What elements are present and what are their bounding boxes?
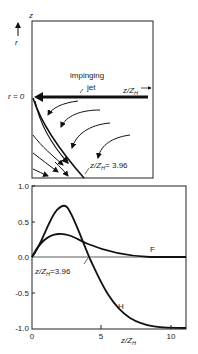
- jet-label-line2: jet: [86, 83, 96, 92]
- figure: z r r = 0 impinging jet z/ZH z/ZH= 3.96: [0, 0, 198, 354]
- flow-frame: [32, 21, 153, 178]
- x-axis: 0 5 10 z/ZH: [30, 325, 176, 346]
- streamline-3: [72, 123, 110, 148]
- axis-z-label: z: [28, 11, 33, 20]
- streamline-5: [33, 135, 63, 165]
- flow-diagram-panel: z r r = 0 impinging jet z/ZH z/ZH= 3.96: [8, 11, 153, 178]
- boundary-label: z/ZH= 3.96: [89, 161, 128, 171]
- streamline-7: [33, 169, 48, 176]
- jet-label-line1: impinging: [70, 71, 104, 80]
- streamline-6: [33, 153, 58, 172]
- streamline-4: [98, 135, 130, 158]
- x-tick-10: 10: [167, 332, 176, 341]
- r-zero-label: r = 0: [8, 92, 25, 101]
- y-tick-1: 1.0: [18, 182, 30, 191]
- profile-chart: 1.0 0.5 0.0 -0.5 -1.0 0 5 10 z/ZH F H z/…: [15, 182, 186, 346]
- axis-r-label: r: [15, 38, 18, 47]
- jet-axis-label: z/ZH: [122, 86, 138, 96]
- y-tick-0.5: 0.5: [18, 218, 30, 227]
- series-H-label: H: [118, 302, 124, 311]
- y-tick-neg0.5: -0.5: [15, 289, 29, 298]
- x-tick-0: 0: [30, 332, 35, 341]
- y-tick-neg1: -1.0: [15, 324, 29, 333]
- x-axis-label: z/ZH: [120, 336, 136, 346]
- boundary-annotation: z/ZH=3.96: [34, 267, 71, 277]
- y-tick-0: 0.0: [18, 253, 30, 262]
- x-tick-5: 5: [99, 332, 104, 341]
- streamline-2: [61, 110, 100, 127]
- streamline-1: [48, 101, 78, 115]
- jet-arrowhead-icon: [34, 92, 43, 102]
- series-F-line: [32, 234, 186, 257]
- series-F-label: F: [150, 245, 155, 254]
